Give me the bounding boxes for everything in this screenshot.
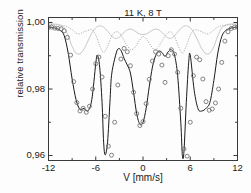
x-axis-label: V [mm/s]: [48, 172, 238, 183]
condition-annotation: 11 K, 8 T: [48, 7, 238, 18]
moessbauer-figure: 1,00 0,98 0,96 -12 -6 0 6 12 relative tr…: [0, 0, 251, 193]
y-tick-label: 0,96: [9, 149, 45, 160]
y-axis-label: relative transmission: [14, 0, 25, 114]
